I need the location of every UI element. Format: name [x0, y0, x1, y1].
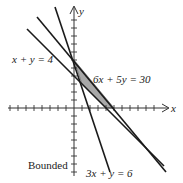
- y-axis-label: y: [79, 6, 84, 17]
- y-axis: [70, 6, 78, 176]
- label-x-plus-y-eq-4: x + y = 4: [12, 54, 53, 65]
- feasible-region-diagram: y x x + y = 4 6x + 5y = 30 3x + y = 6 Bo…: [0, 0, 183, 183]
- x-axis-label: x: [171, 103, 176, 114]
- region-label-bounded: Bounded: [28, 160, 68, 171]
- label-6x-plus-5y-eq-30: 6x + 5y = 30: [93, 74, 151, 85]
- line-3x-plus-y-eq-6: [55, 7, 110, 172]
- label-3x-plus-y-eq-6: 3x + y = 6: [86, 168, 133, 179]
- graph-canvas: [0, 0, 183, 183]
